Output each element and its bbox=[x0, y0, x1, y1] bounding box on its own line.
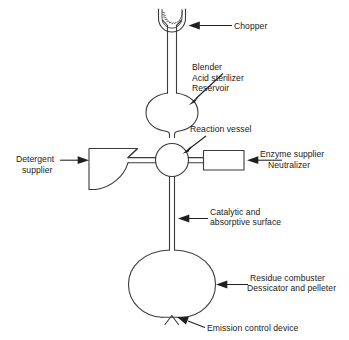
label-reaction-vessel: Reaction vessel bbox=[190, 124, 251, 135]
label-blender: Blender bbox=[192, 62, 222, 73]
catalytic-column-shape bbox=[170, 183, 175, 250]
chopper-leader bbox=[189, 22, 233, 30]
label-chopper: Chopper bbox=[234, 21, 267, 32]
label-reservoir: Reservoir bbox=[192, 83, 229, 94]
label-residue-combuster: Residue combuster bbox=[250, 273, 325, 284]
label-enzyme-supplier: Enzyme supplier bbox=[260, 149, 324, 160]
residue-combuster-leader bbox=[216, 281, 248, 289]
label-absorptive-surface: absorptive surface bbox=[210, 217, 281, 228]
enzyme-supplier-shape bbox=[204, 151, 245, 171]
detergent-supplier-shape bbox=[89, 149, 138, 190]
label-neutralizer: Neutralizer bbox=[268, 160, 310, 171]
label-acid-sterilizer: Acid sterilizer bbox=[192, 73, 244, 84]
chopper-to-reservoir-tube bbox=[163, 21, 181, 94]
reaction-vessel-shape bbox=[128, 144, 204, 184]
emission-control-leader bbox=[177, 317, 205, 328]
residue-combuster-shape bbox=[129, 250, 216, 317]
label-detergent: Detergent bbox=[16, 154, 54, 165]
detergent-supplier-leader bbox=[60, 156, 89, 164]
catalytic-leader bbox=[178, 215, 208, 223]
label-catalytic: Catalytic and bbox=[210, 207, 260, 218]
label-dessicator-pelleter: Dessicator and pelleter bbox=[247, 283, 336, 294]
label-detergent-supplier: supplier bbox=[22, 165, 53, 176]
label-emission-control: Emission control device bbox=[207, 323, 298, 334]
reaction-vessel-leader bbox=[183, 136, 207, 154]
apparatus-diagram: Chopper Blender Acid sterilizer Reservoi… bbox=[0, 0, 349, 340]
